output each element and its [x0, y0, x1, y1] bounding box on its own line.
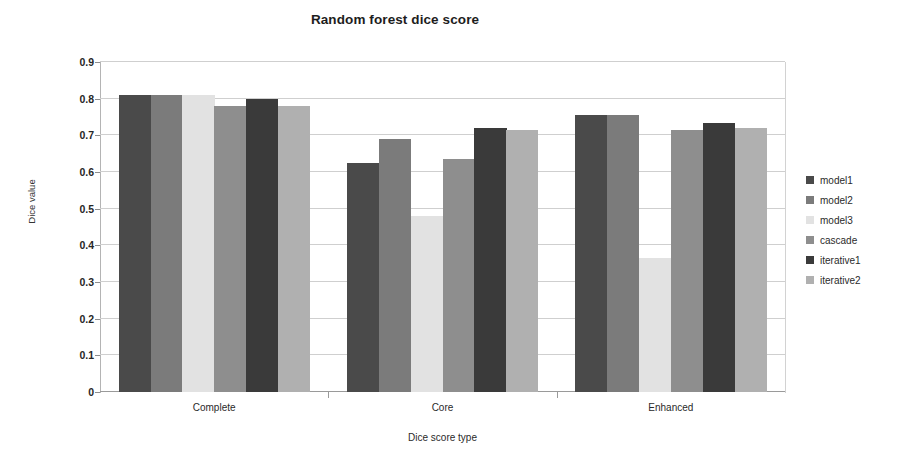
y-tick-mark — [95, 172, 100, 173]
bar-cascade-core — [443, 159, 475, 392]
legend-item-cascade[interactable]: cascade — [806, 230, 910, 250]
y-tick-mark — [95, 282, 100, 283]
legend-item-label: cascade — [820, 235, 857, 246]
bar-model3-core — [411, 216, 443, 392]
legend-swatch-icon — [806, 196, 814, 204]
legend-item-iterative1[interactable]: iterative1 — [806, 250, 910, 270]
legend-swatch-icon — [806, 216, 814, 224]
bar-iterative1-complete — [246, 99, 278, 392]
legend-item-label: iterative2 — [820, 275, 861, 286]
y-tick-mark — [95, 392, 100, 393]
legend-item-label: model1 — [820, 175, 853, 186]
x-group-label-complete: Complete — [100, 402, 328, 413]
bar-model3-enhanced — [639, 258, 671, 392]
bar-model1-complete — [119, 95, 151, 392]
bar-iterative2-complete — [278, 106, 310, 392]
legend-item-label: model3 — [820, 215, 853, 226]
y-tick-mark — [95, 355, 100, 356]
x-group-label-core: Core — [328, 402, 556, 413]
y-tick-label: 0.6 — [60, 166, 94, 178]
legend-item-label: iterative1 — [820, 255, 861, 266]
y-tick-label: 0 — [60, 386, 94, 398]
y-tick-label: 0.9 — [60, 56, 94, 68]
bar-chart: Random forest dice score 00.10.20.30.40.… — [0, 0, 913, 462]
gridline-0.9 — [100, 61, 785, 62]
legend-item-model1[interactable]: model1 — [806, 170, 910, 190]
y-axis-label: Dice value — [26, 162, 37, 242]
x-group-separator — [557, 392, 558, 398]
bar-model2-enhanced — [607, 115, 639, 392]
y-tick-mark — [95, 245, 100, 246]
x-axis-label: Dice score type — [100, 432, 785, 443]
plot-area — [100, 62, 785, 392]
y-tick-mark — [95, 319, 100, 320]
bar-model2-core — [379, 139, 411, 392]
y-tick-label: 0.5 — [60, 203, 94, 215]
y-tick-label: 0.4 — [60, 239, 94, 251]
legend-item-model3[interactable]: model3 — [806, 210, 910, 230]
x-group-label-enhanced: Enhanced — [557, 402, 785, 413]
bar-iterative1-enhanced — [703, 123, 735, 393]
y-tick-label: 0.3 — [60, 276, 94, 288]
bar-cascade-enhanced — [671, 130, 703, 392]
legend-item-model2[interactable]: model2 — [806, 190, 910, 210]
legend-item-label: model2 — [820, 195, 853, 206]
y-tick-label: 0.8 — [60, 93, 94, 105]
legend-swatch-icon — [806, 256, 814, 264]
y-tick-mark — [95, 62, 100, 63]
legend-swatch-icon — [806, 176, 814, 184]
y-tick-mark — [95, 99, 100, 100]
bar-iterative1-core — [474, 128, 506, 392]
bar-model1-core — [347, 163, 379, 392]
y-tick-label: 0.1 — [60, 349, 94, 361]
y-tick-mark — [95, 135, 100, 136]
bar-model2-complete — [151, 95, 183, 392]
x-group-separator — [328, 392, 329, 398]
legend-swatch-icon — [806, 276, 814, 284]
legend-swatch-icon — [806, 236, 814, 244]
y-tick-label: 0.2 — [60, 313, 94, 325]
bar-model1-enhanced — [575, 115, 607, 392]
y-tick-label: 0.7 — [60, 129, 94, 141]
chart-legend: model1model2model3cascadeiterative1itera… — [806, 170, 910, 290]
bar-cascade-complete — [214, 106, 246, 392]
bar-iterative2-enhanced — [735, 128, 767, 392]
chart-title: Random forest dice score — [0, 12, 790, 27]
y-axis-tick-labels: 00.10.20.30.40.50.60.70.80.9 — [54, 62, 94, 392]
y-tick-mark — [95, 209, 100, 210]
plot-right-border — [785, 62, 786, 393]
bar-model3-complete — [182, 95, 214, 392]
legend-item-iterative2[interactable]: iterative2 — [806, 270, 910, 290]
bar-iterative2-core — [506, 130, 538, 392]
